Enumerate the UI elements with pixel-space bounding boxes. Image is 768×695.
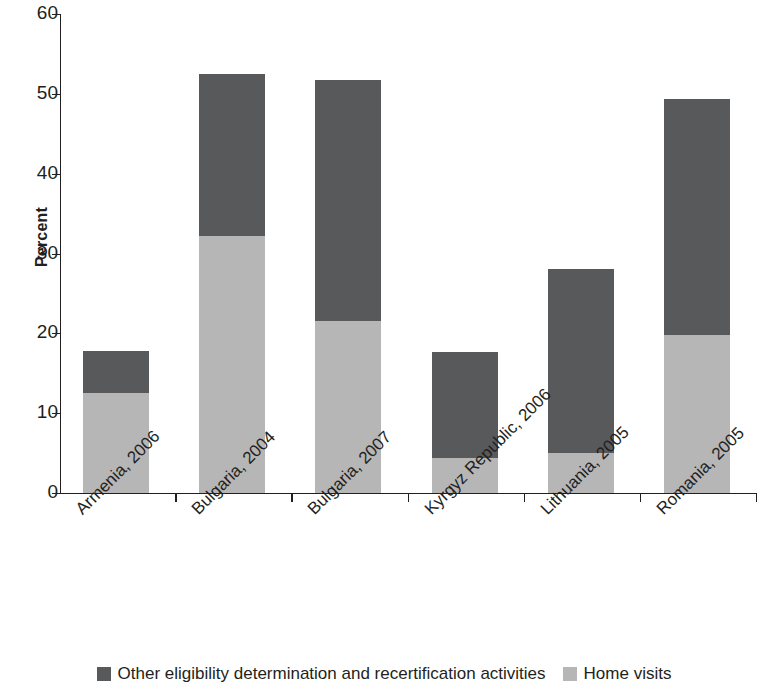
legend-item[interactable]: Other eligibility determination and rece… — [97, 665, 546, 682]
x-tick-mark — [408, 493, 409, 502]
bar-segment-other-activities[interactable] — [315, 80, 381, 321]
bar-segment-other-activities[interactable] — [83, 351, 149, 393]
legend-swatch-icon — [97, 667, 111, 681]
y-tick-label: 30 — [14, 243, 58, 262]
y-axis-title: Percent — [33, 177, 51, 297]
y-tick-mark — [52, 14, 60, 15]
y-tick-label: 40 — [14, 163, 58, 182]
bar-segment-other-activities[interactable] — [199, 74, 265, 236]
bar-segment-other-activities[interactable] — [548, 269, 614, 453]
y-tick-mark — [52, 94, 60, 95]
x-tick-mark — [524, 493, 525, 502]
stacked-bar-chart: Percent 0102030405060 Armenia, 2006Bulga… — [0, 0, 768, 695]
chart-legend: Other eligibility determination and rece… — [0, 665, 768, 682]
bar-segment-other-activities[interactable] — [664, 99, 730, 335]
bar-group[interactable] — [664, 14, 730, 493]
x-tick-mark — [175, 493, 176, 502]
x-tick-mark — [640, 493, 641, 502]
y-tick-mark — [52, 493, 60, 494]
x-tick-mark — [291, 493, 292, 502]
y-tick-label: 20 — [14, 322, 58, 341]
y-tick-mark — [52, 254, 60, 255]
plot-area — [60, 14, 757, 493]
bar-group[interactable] — [548, 14, 614, 493]
y-tick-label: 60 — [14, 3, 58, 22]
y-tick-label: 50 — [14, 83, 58, 102]
legend-swatch-icon — [563, 667, 577, 681]
y-tick-label: 0 — [14, 482, 58, 501]
y-tick-label: 10 — [14, 402, 58, 421]
bar-group[interactable] — [315, 14, 381, 493]
bar-group[interactable] — [199, 14, 265, 493]
legend-item[interactable]: Home visits — [563, 665, 672, 682]
legend-label: Home visits — [584, 665, 672, 682]
y-tick-mark — [52, 413, 60, 414]
bar-group[interactable] — [432, 14, 498, 493]
y-tick-mark — [52, 333, 60, 334]
legend-label: Other eligibility determination and rece… — [118, 665, 546, 682]
y-tick-mark — [52, 174, 60, 175]
bar-group[interactable] — [83, 14, 149, 493]
x-tick-mark — [756, 493, 757, 502]
